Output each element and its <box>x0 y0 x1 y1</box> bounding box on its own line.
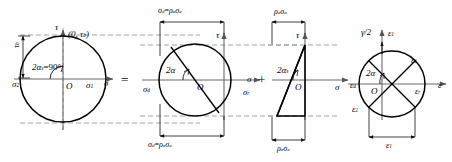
operator-plus: + <box>258 72 265 88</box>
panel1-tau-b-label: τb <box>11 42 21 48</box>
panel2-top-dimension-label: σd=ρaσa <box>158 6 182 15</box>
panel3-angle-label: 2αs <box>277 65 288 75</box>
panel2-origin-label: O <box>197 82 204 92</box>
panel1-sigma2-label: σ2 <box>12 79 19 89</box>
panel2-sigma-r-label: σr <box>243 87 249 97</box>
panel4-bottom-dimension-label: ε1 <box>386 140 392 150</box>
panel1-tau-axis-label: τ <box>55 22 58 32</box>
panel2-sigma-d-label: σd <box>143 84 150 94</box>
panel2-sigma-axis-label: σ <box>247 74 251 84</box>
panel2-tau-axis-label: τ <box>216 30 219 40</box>
panel3-tau-axis-label: τ <box>296 30 299 40</box>
mohr-circle-decomposition-figure: τ (0, τb) τb 2αs=90° σ2 O σ1 σ = σd=ρaσa… <box>0 0 452 162</box>
panel2-angle-label: 2α <box>166 65 175 75</box>
panel4-origin-label: O <box>371 86 378 96</box>
panel4-eps1-top-label: ε1 <box>388 28 394 38</box>
panel3-bottom-dimension-label: ρaσa <box>277 144 290 153</box>
panel1-sigma1-label: σ1 <box>86 80 93 90</box>
panel4-eps2-label: ε2 <box>352 104 358 114</box>
panel1-angle-label: 2αs=90° <box>32 62 61 72</box>
panel4-gamma-axis-label: γ/2 <box>361 27 371 37</box>
panel1-sigma-axis-label: σ <box>104 78 108 88</box>
panel4-eps-d-label: εd <box>350 80 356 90</box>
panel4-eps1-right-label: ε1 <box>411 55 417 65</box>
panel1-origin-label: O <box>66 81 73 91</box>
panel3-top-dimension-label: ρaσa <box>274 7 287 16</box>
panel4-epsilon-axis-label: ε <box>438 80 442 90</box>
panel4-geometry <box>348 30 446 137</box>
panel4-angle-label: 2α <box>366 68 375 78</box>
panel3-sigma-axis-label: σ <box>335 82 339 92</box>
panel2-bottom-dimension-label: σd=ρaσa <box>148 140 172 149</box>
panel1-point-label: (0, τb) <box>68 29 89 39</box>
panel3-origin-label: O <box>295 82 302 92</box>
panel2-angle-arrow <box>184 69 189 75</box>
operator-equals: = <box>121 72 128 88</box>
panel2-geometry <box>140 22 300 136</box>
panel3-geometry <box>268 22 348 140</box>
panel4-eps-r-label: εr <box>415 86 420 96</box>
